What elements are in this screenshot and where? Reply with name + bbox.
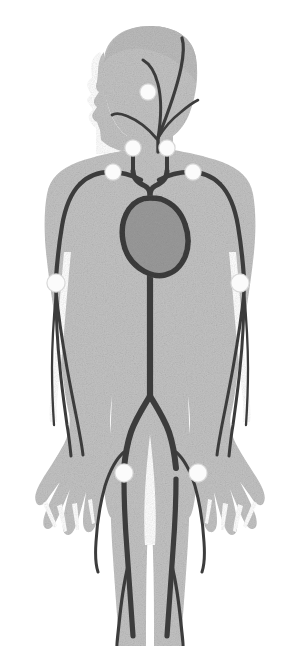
pulse-point-marker-brachial-right[interactable]: Brachial pulse point (right) xyxy=(230,273,249,292)
arterial-system-diagram: Temporal pulse pointCarotid pulse point … xyxy=(0,0,305,646)
marker-dot[interactable] xyxy=(116,465,133,482)
pulse-point-marker-temporal[interactable]: Temporal pulse point xyxy=(139,83,156,100)
heart-shape xyxy=(122,198,188,276)
marker-dot[interactable] xyxy=(190,465,207,482)
marker-dot[interactable] xyxy=(141,85,156,100)
pulse-point-marker-brachial-left[interactable]: Brachial pulse point (left) xyxy=(46,273,65,292)
anatomy-figure: Temporal pulse pointCarotid pulse point … xyxy=(0,0,305,646)
pulse-point-marker-femoral-right[interactable]: Femoral pulse point (right) xyxy=(188,463,207,482)
marker-dot[interactable] xyxy=(160,141,175,156)
marker-dot[interactable] xyxy=(232,275,249,292)
heart xyxy=(122,198,188,276)
pulse-point-marker-carotid-right[interactable]: Carotid pulse point (right) xyxy=(158,139,175,156)
marker-dot[interactable] xyxy=(106,165,121,180)
pulse-point-marker-subclavian-left[interactable]: Subclavian pulse point (left) xyxy=(104,163,121,180)
pulse-point-marker-subclavian-right[interactable]: Subclavian pulse point (right) xyxy=(184,163,201,180)
pulse-point-marker-femoral-left[interactable]: Femoral pulse point (left) xyxy=(114,463,133,482)
pulse-point-marker-carotid-left[interactable]: Carotid pulse point (left) xyxy=(124,139,141,156)
marker-dot[interactable] xyxy=(186,165,201,180)
marker-dot[interactable] xyxy=(126,141,141,156)
marker-dot[interactable] xyxy=(48,275,65,292)
